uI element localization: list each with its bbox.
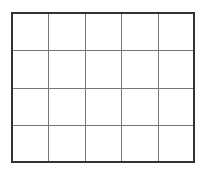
grid-diagram	[11, 12, 195, 163]
grid-cell	[158, 125, 195, 163]
grid-cell	[11, 125, 48, 163]
grid-cell	[158, 12, 195, 50]
grid-svg	[11, 12, 195, 163]
grid-cell	[48, 88, 85, 126]
grid-cell	[85, 12, 122, 50]
grid-cell	[121, 50, 158, 88]
grid-cell	[121, 88, 158, 126]
grid-cell	[85, 125, 122, 163]
grid-cell	[48, 12, 85, 50]
grid-cell	[121, 12, 158, 50]
grid-cell	[11, 50, 48, 88]
grid-cell	[48, 50, 85, 88]
grid-cell	[11, 88, 48, 126]
grid-cell	[121, 125, 158, 163]
grid-cell	[11, 12, 48, 50]
grid-cell	[85, 50, 122, 88]
grid-cell	[48, 125, 85, 163]
grid-cell	[158, 50, 195, 88]
grid-cell	[158, 88, 195, 126]
grid-cell	[85, 88, 122, 126]
